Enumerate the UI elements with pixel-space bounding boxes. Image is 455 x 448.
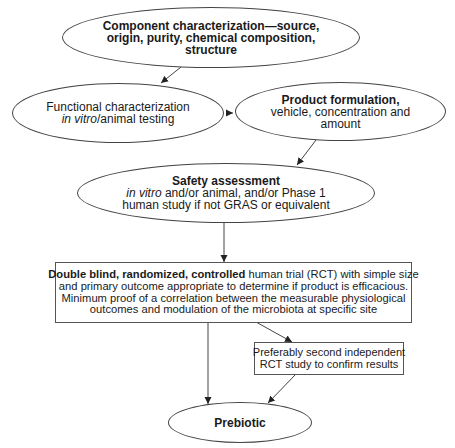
node-functional-characterization: Functional characterization in vitro/ani…	[12, 83, 224, 143]
component-line-1: Component characterization—source,	[103, 20, 320, 32]
edge-formulation-to-safety	[297, 140, 316, 165]
functional-line-2: in vitro/animal testing	[62, 113, 175, 125]
edge-component-to-functional	[161, 67, 181, 83]
rct-line-2: and primary outcome appropriate to deter…	[59, 281, 408, 293]
node-component-characterization: Component characterization—source, origi…	[62, 7, 360, 68]
rct-line-1-bold: Double blind, randomized, controlled	[48, 268, 245, 280]
edge-rct-to-second-rct	[256, 322, 292, 342]
node-product-formulation: Product formulation, vehicle, concentrat…	[235, 82, 446, 141]
safety-line-3: human study if not GRAS or equivalent	[122, 199, 329, 211]
second-rct-line-2: RCT study to confirm results	[260, 359, 399, 371]
rct-line-1-rest: human trial (RCT) with simple size	[245, 268, 418, 280]
component-line-3: structure	[185, 44, 237, 56]
rct-line-1: Double blind, randomized, controlled hum…	[48, 269, 418, 281]
prebiotic-label: Prebiotic	[214, 417, 265, 429]
functional-line-2-rest: /animal testing	[97, 112, 174, 126]
node-second-rct: Preferably second independent RCT study …	[254, 342, 404, 375]
second-rct-line-1: Preferably second independent	[253, 347, 405, 359]
formulation-line-3: amount	[320, 118, 360, 130]
functional-in-vitro: in vitro	[62, 112, 97, 126]
edge-second-rct-to-prebiotic	[268, 374, 296, 403]
formulation-line-2: vehicle, concentration and	[271, 106, 410, 118]
node-prebiotic: Prebiotic	[168, 402, 312, 443]
rct-line-4: outcomes and modulation of the microbiot…	[90, 304, 377, 316]
component-line-2: origin, purity, chemical composition,	[107, 32, 315, 44]
node-safety-assessment: Safety assessment in vitro and/or animal…	[77, 163, 375, 223]
formulation-title: Product formulation,	[282, 94, 400, 106]
node-rct-trial: Double blind, randomized, controlled hum…	[55, 262, 412, 323]
